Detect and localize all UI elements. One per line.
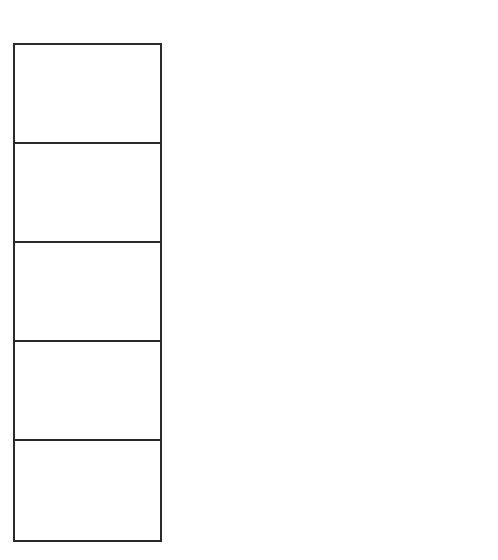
stack-cell-2 [15,144,160,243]
stack-cell-1 [15,45,160,144]
stack-cell-5 [15,441,160,540]
stack-cell-3 [15,243,160,342]
stack-cell-4 [15,342,160,441]
vertical-cell-stack [13,43,162,542]
